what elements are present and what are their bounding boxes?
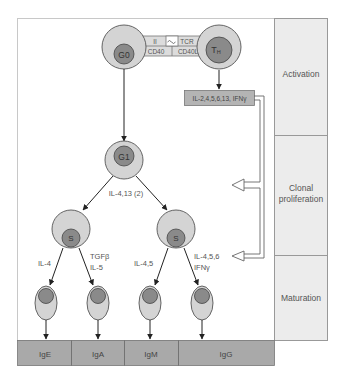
cd40l-label: CD40L: [178, 48, 199, 55]
stage-clonal-label-line1: Clonal: [289, 183, 313, 193]
immunoglobulin-bar: IgE IgA IgM IgG: [18, 341, 275, 366]
ig-iga-label: IgA: [92, 350, 105, 359]
cell-g1-label: G1: [118, 152, 130, 162]
ig-igm-label: IgM: [144, 350, 158, 359]
stage-activation-label: Activation: [283, 69, 320, 79]
cell-th: TH: [197, 25, 241, 69]
ig-igg-label: IgG: [220, 350, 233, 359]
mhc-ii-label: II: [153, 38, 157, 45]
plasma-cell-igm: [139, 286, 161, 320]
cytokine-box-label: IL-2,4,5,6,13, IFNγ: [193, 95, 248, 103]
label-il4: IL-4: [38, 259, 51, 268]
cell-s-right: S: [157, 210, 195, 248]
label-il456: IL-4,5,6: [194, 252, 219, 261]
label-il45: IL-4,5: [134, 259, 153, 268]
ig-ige-label: IgE: [39, 350, 51, 359]
plasma-cell-ige: [35, 286, 57, 320]
b-cell-activation-diagram: Activation Clonal proliferation Maturati…: [0, 0, 344, 379]
label-tgfb: TGFβ: [90, 252, 110, 261]
cell-g1: G1: [105, 141, 143, 179]
plasma-cell-igg: [191, 286, 213, 320]
g1-split-label: IL-4,13 (2): [109, 189, 144, 198]
stage-maturation-label: Maturation: [281, 293, 321, 303]
cell-s-left: S: [52, 210, 90, 248]
stage-clonal-label-line2: proliferation: [279, 194, 324, 204]
stage-panel: Activation Clonal proliferation Maturati…: [275, 19, 328, 341]
label-ifng: IFNγ: [194, 263, 210, 272]
receptor-interaction: II TCR CD40 CD40L: [140, 36, 204, 56]
cell-s-left-label: S: [68, 234, 73, 243]
cd40-label: CD40: [148, 48, 165, 55]
cell-s-right-label: S: [173, 234, 178, 243]
cytokine-box: IL-2,4,5,6,13, IFNγ: [185, 91, 255, 106]
tcr-label: TCR: [180, 38, 194, 45]
plasma-cell-iga: [87, 286, 109, 320]
cell-g0: G0: [102, 25, 146, 69]
cell-g0-label: G0: [118, 50, 130, 60]
label-il5: IL-5: [90, 263, 103, 272]
